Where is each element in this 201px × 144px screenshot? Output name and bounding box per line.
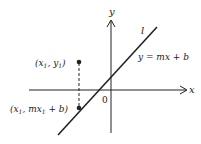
point-x1-mx1-plus-b-label: (x1, mx1 + b) xyxy=(10,104,69,115)
origin-label: 0 xyxy=(102,95,108,105)
point-x1-y1 xyxy=(77,60,82,65)
line-name-label: l xyxy=(141,25,144,36)
line-equation-label: y = mx + b xyxy=(137,52,189,62)
point-x1-mx1-plus-b xyxy=(77,106,82,111)
line-equation-diagram: y x 0 l y = mx + b (x1, y1) (x1, mx1 + b… xyxy=(0,0,201,144)
point-x1-y1-label: (x1, y1) xyxy=(35,58,66,69)
y-axis-label: y xyxy=(108,6,115,17)
line-l xyxy=(58,27,157,135)
diagram-svg: y x 0 l y = mx + b (x1, y1) (x1, mx1 + b… xyxy=(0,0,201,144)
x-axis-label: x xyxy=(189,84,195,95)
